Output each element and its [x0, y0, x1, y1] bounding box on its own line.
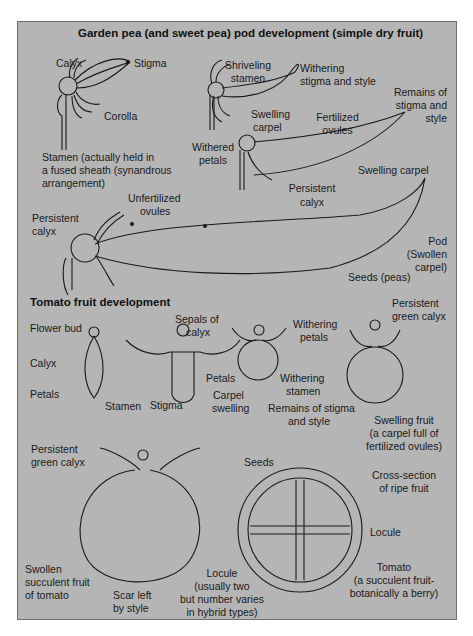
label-remains-stigma-line1: Remains of stigma	[268, 402, 355, 414]
pea-section-title: Garden pea (and sweet pea) pod developme…	[78, 27, 423, 39]
label-stamen-line3: arrangement)	[42, 177, 105, 189]
label-withering-petals-line1: Withering	[293, 318, 337, 330]
label-locule-note-line1: Locule	[172, 567, 272, 579]
label-scar-line1: Scar left	[113, 589, 152, 601]
tomato-section-title: Tomato fruit development	[30, 296, 170, 308]
pea-flower-drawing	[58, 58, 131, 150]
label-stigma: Stigma	[134, 57, 167, 69]
label-bud-calyx: Calyx	[30, 357, 56, 369]
label-swelling-fruit-line2: (a carpel full of	[362, 427, 446, 439]
label-swollen-line3: of tomato	[25, 589, 69, 601]
label-bud-petals: Petals	[30, 388, 59, 400]
label-swelling-carpel: Swelling carpel	[358, 164, 429, 176]
label-fertilized-line1: Fertilized	[310, 111, 365, 123]
label-stamen-line2: a fused sheath (synandrous	[42, 164, 172, 176]
label-seeds-peas: Seeds (peas)	[348, 271, 410, 283]
label-withering-line1: Withering	[300, 62, 344, 74]
label-locule-note-line4: in hybrid types)	[172, 606, 272, 618]
tomato-ripe-drawing	[80, 448, 200, 582]
tomato-bud-drawing	[85, 327, 103, 398]
tomato-swelling-drawing	[347, 320, 403, 403]
label-tomato-line3: botanically a berry)	[340, 587, 448, 599]
label-locule-note-line2: (usually two	[172, 580, 272, 592]
label-flower-bud: Flower bud	[30, 322, 82, 334]
label-withered-line2: petals	[188, 154, 238, 166]
label-persistent-line2: calyx	[282, 196, 342, 208]
label-corolla: Corolla	[104, 110, 137, 122]
label-locule: Locule	[370, 526, 401, 538]
label-tomato-line1: Tomato	[340, 561, 448, 573]
label-remains-line2: stigma and	[380, 99, 447, 111]
label-withering-stamen-line2: stamen	[286, 385, 320, 397]
label-carpel-line2: swelling	[212, 402, 249, 414]
label-flower-petals: Petals	[206, 372, 235, 384]
label-withering-petals-line2: petals	[300, 331, 328, 343]
label-pea-persistent-line2: calyx	[32, 225, 56, 237]
label-locule-note-line3: but number varies	[172, 593, 272, 605]
label-fertilized-line2: ovules	[310, 124, 365, 136]
label-swelling-line2: carpel	[253, 121, 282, 133]
label-pea-persistent-line1: Persistent	[32, 212, 79, 224]
label-ripe-persistent-line1: Persistent	[31, 443, 78, 455]
label-swelling-persistent-line2: green calyx	[392, 310, 446, 322]
label-shriveling-line2: stamen	[218, 72, 278, 84]
label-withered-line1: Withered	[188, 141, 238, 153]
label-cross-section-line2: of ripe fruit	[360, 482, 448, 494]
label-swelling-persistent-line1: Persistent	[392, 297, 439, 309]
label-seeds: Seeds	[244, 456, 274, 468]
label-scar-line2: by style	[113, 602, 149, 614]
label-pod-line2: (Swollen	[390, 248, 447, 260]
label-swollen-line1: Swollen	[25, 563, 62, 575]
label-flower-stigma: Stigma	[150, 399, 183, 411]
label-remains-line1: Remains of	[380, 86, 447, 98]
label-remains-stigma-line2: and style	[288, 415, 330, 427]
label-calyx: Calyx	[56, 57, 82, 69]
label-withering-stamen-line1: Withering	[280, 372, 324, 384]
label-swelling-line1: Swelling	[251, 108, 290, 120]
label-stamen-line1: Stamen (actually held in	[42, 151, 154, 163]
label-pod-line1: Pod	[390, 235, 447, 247]
label-shriveling-line1: Shriveling	[218, 59, 278, 71]
label-unfertilized-line2: ovules	[140, 205, 170, 217]
label-unfertilized-line1: Unfertilized	[128, 192, 181, 204]
label-remains-line3: style	[380, 112, 447, 124]
label-swelling-fruit-line3: fertilized ovules)	[362, 440, 446, 452]
label-withering-line2: stigma and style	[300, 75, 376, 87]
label-ripe-persistent-line2: green calyx	[31, 456, 85, 468]
label-persistent-line1: Persistent	[282, 182, 342, 194]
label-swollen-line2: succulent fruit	[25, 576, 90, 588]
label-cross-section-line1: Cross-section	[360, 469, 448, 481]
label-tomato-line2: (a succulent fruit-	[340, 574, 448, 586]
tomato-early-drawing	[232, 325, 286, 380]
label-sepals-line2: calyx	[186, 326, 210, 338]
label-swelling-fruit-line1: Swelling fruit	[362, 414, 446, 426]
label-carpel-line1: Carpel	[213, 389, 244, 401]
label-flower-stamen: Stamen	[105, 400, 141, 412]
label-sepals-line1: Sepals of	[175, 313, 219, 325]
